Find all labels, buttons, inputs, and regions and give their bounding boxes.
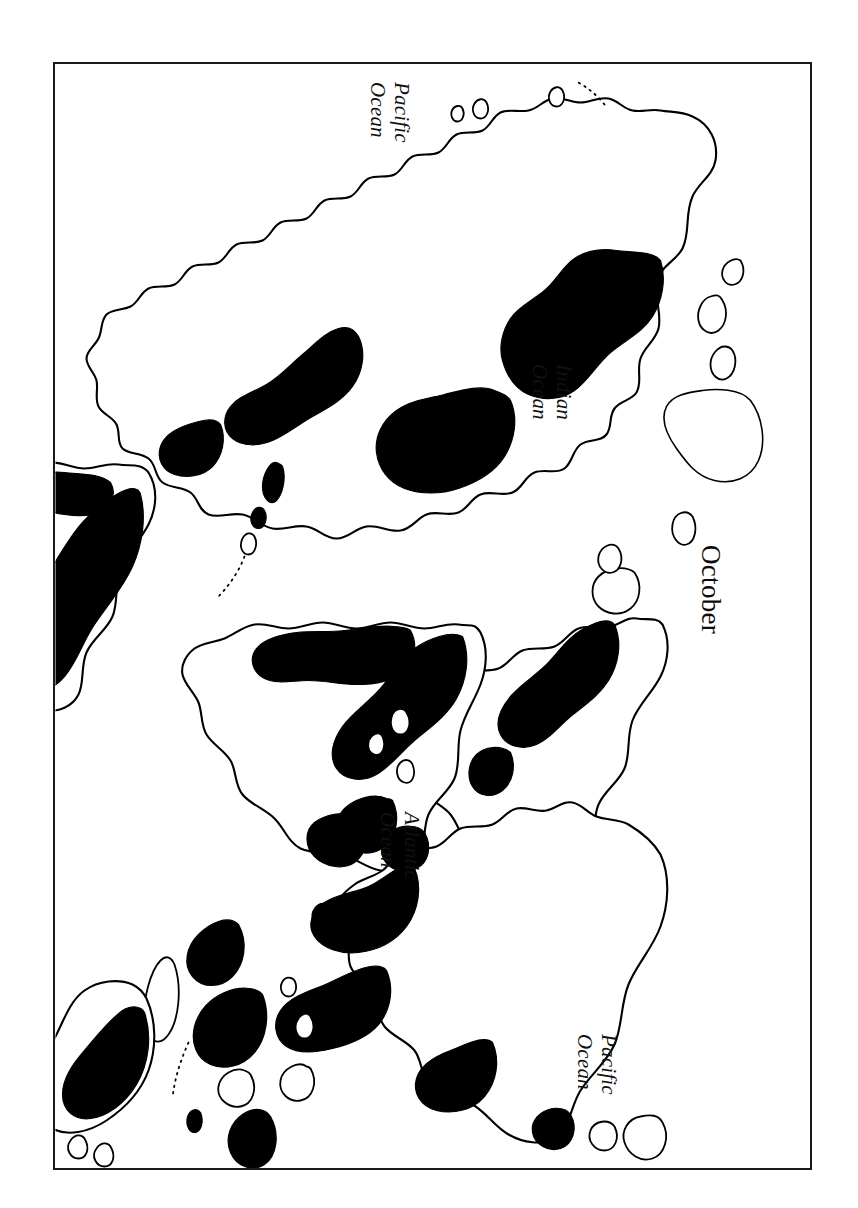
indonesia-islet-2 [280, 977, 295, 996]
label-indian-line1: Indian [552, 364, 576, 420]
indonesia-dotted-chain [172, 1042, 188, 1098]
figure-month-caption: October [695, 545, 726, 634]
aleutian-islet [548, 87, 563, 106]
arctic-islet-3 [722, 259, 743, 285]
caribbean-dotted-arc [216, 556, 244, 598]
label-pacific-top-line1: Pacific [390, 82, 414, 143]
caribbean-islet-3 [240, 533, 255, 554]
label-indian-line2: Ocean [528, 364, 552, 420]
south-america-group [55, 462, 155, 710]
new-zealand-south-outline [68, 1135, 87, 1158]
shade-borneo [193, 988, 266, 1067]
new-zealand-north-outline [94, 1143, 113, 1166]
label-pacific-ocean-top: Pacific Ocean [366, 82, 413, 143]
label-pacific-bottom-line1: Pacific [597, 1034, 621, 1095]
label-pacific-ocean-bottom: Pacific Ocean [573, 1034, 620, 1095]
africa-interior-lake-2 [397, 760, 414, 783]
label-atlantic-line1: Atlantic [400, 812, 424, 880]
west-coast-islet-2 [451, 105, 463, 121]
arctic-islet-2 [710, 346, 735, 379]
sulawesi-outline [218, 1069, 254, 1106]
label-pacific-top-line2: Ocean [366, 82, 390, 143]
arctic-islet-1 [698, 295, 726, 333]
indonesia-islet-3 [186, 1109, 201, 1132]
label-indian-ocean: Indian Ocean [528, 364, 575, 420]
philippines-outline [280, 1064, 314, 1100]
greenland-outline [664, 389, 763, 481]
british-isles-outline [592, 568, 639, 613]
shade-south-america-west-coast [55, 471, 113, 515]
west-coast-islet-1 [472, 99, 487, 118]
label-pacific-bottom-line2: Ocean [573, 1034, 597, 1095]
ireland-outline [598, 544, 621, 572]
africa-group [182, 622, 486, 870]
label-atlantic-line2: Ocean [376, 812, 400, 880]
north-america-group [86, 80, 762, 598]
figure-page: Pacific Ocean Indian Ocean Atlantic Ocea… [0, 0, 858, 1208]
japan-outline [623, 1115, 666, 1159]
shade-sumatra [186, 919, 243, 985]
iceland-outline [672, 512, 695, 544]
label-atlantic-ocean: Atlantic Ocean [376, 812, 423, 880]
africa-interior-lake-1 [390, 708, 408, 734]
shade-new-guinea [228, 1109, 276, 1168]
japan-south-outline [589, 1121, 616, 1150]
